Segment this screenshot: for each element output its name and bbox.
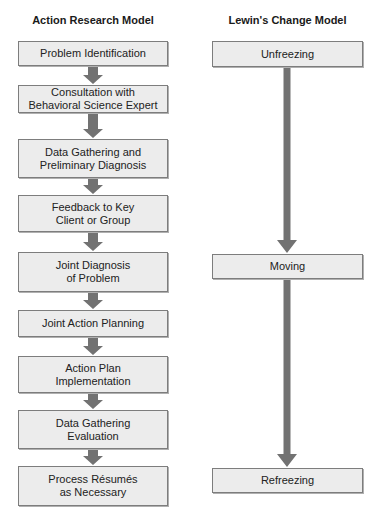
down-arrow-icon-7 (83, 394, 103, 409)
down-arrow-icon-1 (83, 67, 103, 84)
down-arrow-icon-1-shape (83, 67, 103, 84)
long-down-arrow-icon-1-shape (277, 68, 297, 253)
action-step-box-5: Joint Diagnosis of Problem (18, 252, 168, 292)
lewin-stage-box-3-label: Refreezing (261, 474, 314, 487)
action-step-box-8-label: Data Gathering Evaluation (56, 417, 131, 443)
action-step-box-4-label: Feedback to Key Client or Group (52, 201, 135, 227)
lewin-stage-box-1: Unfreezing (212, 41, 363, 67)
long-down-arrow-icon-1 (277, 68, 297, 253)
action-step-box-6: Joint Action Planning (18, 310, 168, 337)
lewin-stage-box-3: Refreezing (212, 468, 363, 493)
action-step-box-3: Data Gathering and Preliminary Diagnosis (18, 139, 168, 178)
down-arrow-icon-2-shape (83, 114, 103, 138)
down-arrow-icon-3-shape (83, 179, 103, 194)
down-arrow-icon-5-shape (83, 293, 103, 309)
down-arrow-icon-4 (83, 233, 103, 251)
down-arrow-icon-4-shape (83, 233, 103, 251)
down-arrow-icon-6 (83, 338, 103, 355)
lewin-stage-box-1-label: Unfreezing (261, 48, 314, 61)
lewin-stage-box-2-label: Moving (270, 260, 305, 273)
down-arrow-icon-6-shape (83, 338, 103, 355)
down-arrow-icon-8 (83, 450, 103, 465)
action-step-box-9: Process Résumés as Necessary (18, 466, 168, 506)
action-step-box-6-label: Joint Action Planning (42, 317, 144, 330)
action-research-model-title: Action Research Model (18, 14, 168, 26)
action-step-box-2: Consultation with Behavioral Science Exp… (18, 85, 168, 113)
action-step-box-5-label: Joint Diagnosis of Problem (56, 259, 131, 285)
long-down-arrow-icon-2-shape (277, 280, 297, 467)
action-step-box-7-label: Action Plan Implementation (55, 362, 130, 388)
action-step-box-9-label: Process Résumés as Necessary (48, 473, 137, 499)
down-arrow-icon-5 (83, 293, 103, 309)
action-step-box-4: Feedback to Key Client or Group (18, 195, 168, 232)
action-step-box-8: Data Gathering Evaluation (18, 410, 168, 449)
lewins-change-model-title: Lewin's Change Model (212, 14, 363, 26)
lewin-stage-box-2: Moving (212, 254, 363, 279)
action-step-box-1-label: Problem Identification (40, 47, 146, 60)
long-down-arrow-icon-2 (277, 280, 297, 467)
action-step-box-3-label: Data Gathering and Preliminary Diagnosis (40, 146, 146, 172)
action-step-box-1: Problem Identification (18, 41, 168, 66)
action-step-box-7: Action Plan Implementation (18, 356, 168, 393)
down-arrow-icon-2 (83, 114, 103, 138)
action-step-box-2-label: Consultation with Behavioral Science Exp… (28, 86, 157, 112)
down-arrow-icon-3 (83, 179, 103, 194)
down-arrow-icon-7-shape (83, 394, 103, 409)
down-arrow-icon-8-shape (83, 450, 103, 465)
